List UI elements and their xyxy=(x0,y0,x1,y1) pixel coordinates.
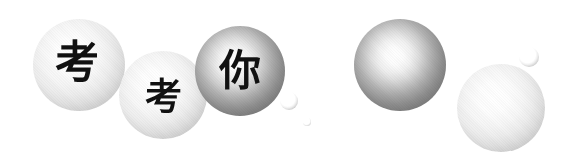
bubble-character: 考 xyxy=(55,41,99,85)
bubble-plain xyxy=(354,19,446,111)
mini-bubble xyxy=(303,118,311,126)
bubble-graphic-canvas: 考考你 xyxy=(0,0,569,164)
bubble-with-character: 考 xyxy=(119,51,207,139)
bubble-character: 考 xyxy=(145,79,182,116)
bubble-with-character: 你 xyxy=(195,26,285,116)
bubble-plain xyxy=(457,64,545,152)
bubble-character: 你 xyxy=(219,50,261,92)
mini-bubble xyxy=(280,92,298,110)
mini-bubble xyxy=(519,47,539,67)
bubble-with-character: 考 xyxy=(33,19,125,111)
